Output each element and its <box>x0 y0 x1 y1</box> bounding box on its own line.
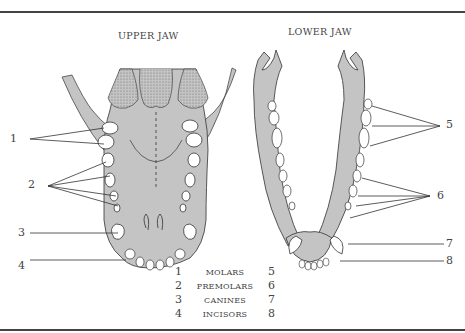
label-8: 8 <box>446 254 453 267</box>
legend-tooth-name: MOLARS <box>189 268 261 277</box>
label-2: 2 <box>28 178 35 191</box>
lower-jaw-illustration <box>254 50 445 270</box>
legend-row-molars: 1 MOLARS 5 <box>175 265 275 279</box>
legend-row-canines: 3 CANINES 7 <box>175 293 275 307</box>
label-5: 5 <box>446 118 453 131</box>
legend-tooth-name: INCISORS <box>189 310 261 319</box>
legend-upper-num: 4 <box>175 307 189 320</box>
legend-upper-num: 3 <box>175 293 189 306</box>
label-6: 6 <box>437 189 444 202</box>
legend-lower-num: 8 <box>261 307 275 320</box>
label-1: 1 <box>10 132 17 145</box>
legend-tooth-name: PREMOLARS <box>189 282 261 291</box>
label-3: 3 <box>18 226 25 239</box>
upper-jaw-illustration <box>30 68 236 270</box>
label-4: 4 <box>18 259 25 272</box>
bottom-rule <box>0 329 465 331</box>
legend-row-incisors: 4 INCISORS 8 <box>175 307 275 321</box>
legend-upper-num: 1 <box>175 265 189 278</box>
tooth-legend: 1 MOLARS 5 2 PREMOLARS 6 3 CANINES 7 4 I… <box>175 265 275 321</box>
label-7: 7 <box>446 237 453 250</box>
legend-upper-num: 2 <box>175 279 189 292</box>
legend-lower-num: 6 <box>261 279 275 292</box>
legend-lower-num: 5 <box>261 265 275 278</box>
legend-lower-num: 7 <box>261 293 275 306</box>
legend-row-premolars: 2 PREMOLARS 6 <box>175 279 275 293</box>
legend-tooth-name: CANINES <box>189 296 261 305</box>
